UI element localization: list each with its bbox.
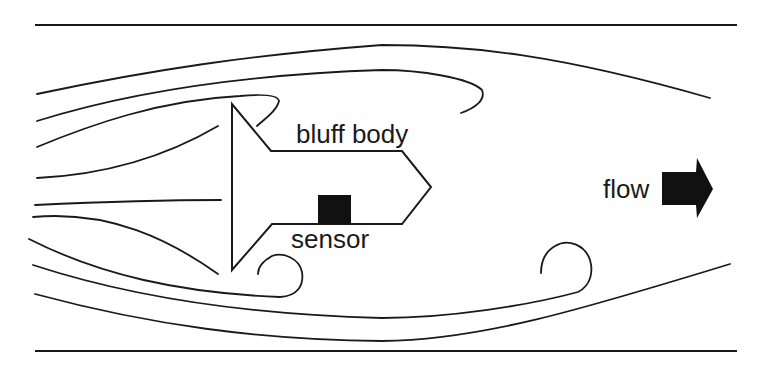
streamline-upper-inner <box>37 126 218 178</box>
streamline-upper-vortex-left <box>37 95 279 147</box>
streamline-lower-outer <box>35 264 730 341</box>
sensor-label: sensor <box>291 224 369 254</box>
sensor-block <box>318 195 351 224</box>
bluff-body-label: bluff body <box>296 119 408 149</box>
flow-arrow-icon <box>662 158 713 218</box>
streamline-center <box>35 200 221 205</box>
flow-label: flow <box>603 174 649 204</box>
flow-diagram: bluff body sensor flow <box>0 0 764 369</box>
streamline-upper-outer <box>37 45 710 98</box>
streamline-lower-inner <box>33 216 218 274</box>
streamline-lower-vortex-left <box>29 239 302 297</box>
